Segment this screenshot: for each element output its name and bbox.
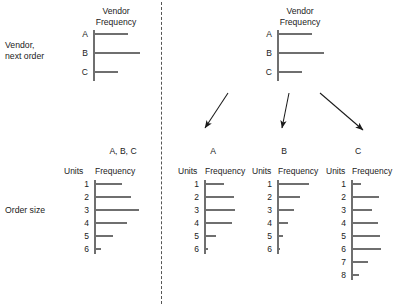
chart-title-order-b: B xyxy=(256,146,312,157)
bar-category-label: 3 xyxy=(173,205,199,215)
bar-category-label: 4 xyxy=(246,218,272,228)
bar-category-label: 6 xyxy=(320,244,346,254)
bar-category-label: 1 xyxy=(173,179,199,189)
bar xyxy=(351,222,378,224)
bar-category-label: 1 xyxy=(320,179,346,189)
colhead-frequency-all: Frequency xyxy=(95,166,135,176)
bar xyxy=(277,235,283,237)
chart-axis xyxy=(351,180,353,280)
colhead-frequency-b: Frequency xyxy=(278,166,318,176)
bar-category-label: 2 xyxy=(63,192,89,202)
colhead-units-a: Units xyxy=(178,166,197,176)
bar-category-label: 6 xyxy=(63,244,89,254)
bar-category-label: 2 xyxy=(320,192,346,202)
chart-axis xyxy=(94,180,96,254)
bar-category-label: 5 xyxy=(63,231,89,241)
bar xyxy=(351,235,380,237)
bar-category-label: 3 xyxy=(246,205,272,215)
bar-category-label: 2 xyxy=(173,192,199,202)
bar xyxy=(204,196,234,198)
bar xyxy=(277,209,294,211)
bar-category-label: 4 xyxy=(63,218,89,228)
bar-category-label: 6 xyxy=(246,244,272,254)
bar xyxy=(204,183,224,185)
bar xyxy=(351,248,381,250)
bar xyxy=(351,209,372,211)
colhead-units-c: Units xyxy=(326,166,345,176)
chart-axis xyxy=(204,180,206,254)
bar-category-label: 4 xyxy=(320,218,346,228)
bar xyxy=(351,196,379,198)
bar xyxy=(94,222,127,224)
colhead-units-b: Units xyxy=(252,166,271,176)
bar-category-label: 4 xyxy=(173,218,199,228)
diagram-canvas: Vendor, next order Order size Vendor Fre… xyxy=(0,0,416,306)
bar xyxy=(277,222,288,224)
chart-axis xyxy=(277,180,279,254)
bar xyxy=(204,248,208,250)
bar-category-label: 6 xyxy=(173,244,199,254)
bar xyxy=(94,183,122,185)
bar xyxy=(204,235,216,237)
bar-category-label: 1 xyxy=(246,179,272,189)
bar-category-label: 5 xyxy=(246,231,272,241)
bar xyxy=(94,248,101,250)
bar xyxy=(204,209,235,211)
bar-category-label: 5 xyxy=(320,231,346,241)
colhead-units-all: Units xyxy=(64,166,83,176)
arrow-to-b xyxy=(282,93,289,128)
bar xyxy=(351,261,368,263)
colhead-frequency-a: Frequency xyxy=(205,166,245,176)
bar xyxy=(351,274,359,276)
bar-category-label: 8 xyxy=(320,270,346,280)
chart-title-order-a: A xyxy=(185,146,241,157)
chart-title-order-all: A, B, C xyxy=(95,146,151,157)
arrow-to-c xyxy=(320,93,363,130)
bar xyxy=(277,196,300,198)
bar-category-label: 3 xyxy=(63,205,89,215)
arrow-to-a xyxy=(205,93,228,128)
bar-category-label: 2 xyxy=(246,192,272,202)
bar xyxy=(204,222,232,224)
bar xyxy=(94,235,113,237)
bar-category-label: 7 xyxy=(320,257,346,267)
bar-category-label: 5 xyxy=(173,231,199,241)
bar xyxy=(277,183,309,185)
bar-category-label: 1 xyxy=(63,179,89,189)
bar xyxy=(277,248,280,250)
bar xyxy=(94,209,139,211)
bar-category-label: 3 xyxy=(320,205,346,215)
bar xyxy=(94,196,131,198)
chart-title-order-c: C xyxy=(330,146,386,157)
bar xyxy=(351,183,361,185)
colhead-frequency-c: Frequency xyxy=(352,166,392,176)
